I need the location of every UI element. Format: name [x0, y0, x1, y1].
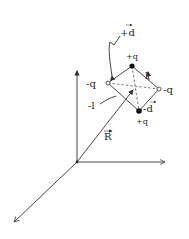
quadrupole-diagram: R +q -q -q +q +d l -l -d — [0, 0, 189, 239]
charge-right-minus — [157, 87, 161, 91]
y-axis — [14, 162, 77, 222]
charge-label-right: -q — [163, 84, 173, 95]
charge-bottom-plus — [136, 108, 142, 114]
charge-label-top: +q — [126, 52, 138, 61]
minus-l-label: -l — [88, 100, 95, 111]
charge-top-plus — [129, 63, 134, 68]
minus-d-label: -d — [143, 103, 153, 114]
plus-d-label: +d — [120, 27, 135, 38]
r-label: R — [104, 131, 112, 142]
charge-label-bottom: +q — [136, 117, 148, 126]
charge-label-left: -q — [86, 78, 96, 89]
charge-left-minus — [106, 81, 110, 85]
l-label: l — [145, 70, 148, 81]
minus-l-pointer — [100, 96, 116, 104]
plus-d-pointer — [109, 36, 120, 76]
